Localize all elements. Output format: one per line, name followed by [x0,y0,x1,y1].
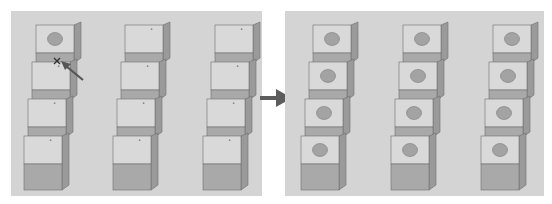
cube-c1-r1 [36,22,81,63]
hole-feature [325,33,340,46]
after-cube-grid [285,11,544,196]
hole-feature [317,107,332,120]
hole-feature [411,70,426,83]
cube-c3-r4 [481,133,526,190]
before-panel [11,11,262,196]
cube-c2-r1 [403,22,448,63]
cube-c3-r1 [493,22,538,63]
hole-feature [497,107,512,120]
cube-c1-r3 [305,96,350,137]
cube-c2-r3 [117,96,162,137]
hole-feature [493,144,508,157]
hole-feature [407,107,422,120]
cube-c3-r1 [215,22,260,63]
cube-c3-r3 [207,96,252,137]
hole-feature [313,144,328,157]
cube-c2-r4 [391,133,436,190]
cube-c3-r4 [203,133,248,190]
cube-c1-r2 [309,59,354,100]
hole-feature [505,33,520,46]
cube-c2-r3 [395,96,440,137]
before-cube-grid [11,11,262,196]
cube-c3-r3 [485,96,530,137]
cube-c1-r3 [28,96,73,137]
hole-feature [321,70,336,83]
hole-feature [415,33,430,46]
cube-c1-r2 [32,59,77,100]
cube-c2-r1 [125,22,170,63]
hole-feature [403,144,418,157]
cube-c2-r2 [399,59,444,100]
cube-c1-r4 [301,133,346,190]
after-panel [285,11,544,196]
cube-c3-r2 [211,59,256,100]
hole-feature [501,70,516,83]
cube-c2-r2 [121,59,166,100]
cube-c1-r1 [313,22,358,63]
cube-c1-r4 [24,133,69,190]
cube-c2-r4 [113,133,158,190]
cube-c3-r2 [489,59,534,100]
hole-feature [48,33,63,46]
